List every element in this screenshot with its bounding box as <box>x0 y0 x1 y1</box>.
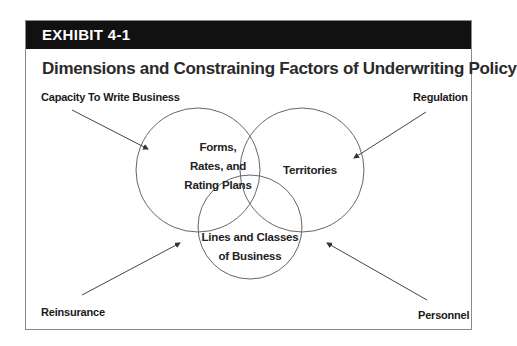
factor-regulation: Regulation <box>413 91 468 103</box>
arrow-personnel <box>327 243 427 300</box>
factor-personnel: Personnel <box>418 309 469 321</box>
dimension-line: of Business <box>195 247 305 266</box>
dimension-line: Lines and Classes <box>195 228 305 247</box>
dimension-forms-rates: Forms, Rates, and Rating Plans <box>168 138 268 195</box>
dimension-territories: Territories <box>265 161 355 180</box>
dimension-line: Forms, <box>168 138 268 157</box>
factor-reinsurance: Reinsurance <box>41 306 105 318</box>
arrow-reinsurance <box>82 243 180 295</box>
arrow-capacity <box>72 110 148 149</box>
arrow-regulation <box>354 112 426 158</box>
dimension-line: Rating Plans <box>168 176 268 195</box>
factor-capacity: Capacity To Write Business <box>41 91 180 103</box>
dimension-lines-classes: Lines and Classes of Business <box>195 228 305 266</box>
dimension-line: Rates, and <box>168 157 268 176</box>
dimension-line: Territories <box>265 161 355 180</box>
